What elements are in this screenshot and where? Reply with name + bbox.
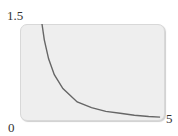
y-axis-max-label: 1.5	[7, 9, 23, 22]
curve-plot	[0, 0, 178, 136]
origin-label: 0	[8, 121, 15, 134]
decay-curve-line	[42, 24, 160, 117]
x-axis-max-label: 5	[166, 112, 173, 125]
